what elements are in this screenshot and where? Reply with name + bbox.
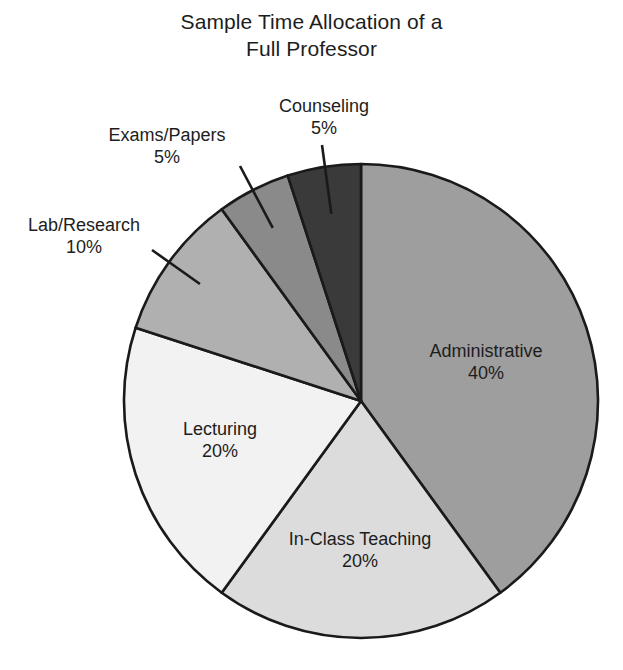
pie-chart-figure: Sample Time Allocation of a Full Profess…: [0, 0, 623, 670]
slice-label-lab-research: Lab/Research 10%: [4, 214, 164, 258]
slice-label-exams-papers: Exams/Papers 5%: [68, 124, 266, 168]
slice-label-lab-research-value: 10%: [4, 236, 164, 258]
slice-label-counseling: Counseling 5%: [249, 95, 399, 139]
slice-label-in-class-teaching-value: 20%: [252, 550, 468, 572]
slice-label-lab-research-name: Lab/Research: [4, 214, 164, 236]
slice-label-lecturing-value: 20%: [150, 440, 290, 462]
slice-label-exams-papers-name: Exams/Papers: [68, 124, 266, 146]
slice-label-exams-papers-value: 5%: [68, 146, 266, 168]
slice-label-lecturing-name: Lecturing: [150, 418, 290, 440]
slice-label-lecturing: Lecturing 20%: [150, 418, 290, 462]
slice-label-counseling-value: 5%: [249, 117, 399, 139]
slice-label-in-class-teaching: In-Class Teaching 20%: [252, 528, 468, 572]
slice-label-administrative: Administrative 40%: [398, 340, 574, 384]
slice-label-counseling-name: Counseling: [249, 95, 399, 117]
slice-label-administrative-name: Administrative: [398, 340, 574, 362]
slice-label-administrative-value: 40%: [398, 362, 574, 384]
slice-label-in-class-teaching-name: In-Class Teaching: [252, 528, 468, 550]
